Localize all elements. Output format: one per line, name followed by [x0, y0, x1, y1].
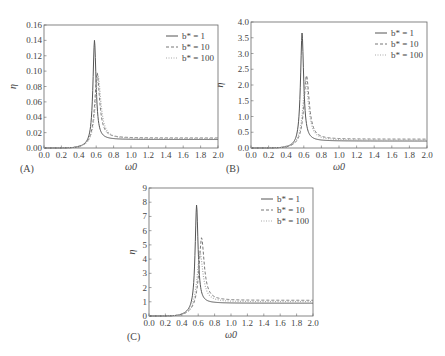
y-tick-label: 6	[143, 226, 148, 236]
legend-label: b* = 10	[277, 205, 305, 215]
x-tick-label: 0.6	[193, 318, 205, 328]
y-tick-label: 0.10	[26, 66, 42, 76]
x-tick-label: 1.6	[275, 318, 287, 328]
y-tick-label: 0.16	[26, 20, 42, 30]
panel-label: (B)	[226, 163, 239, 175]
y-tick-label: 4	[143, 254, 148, 264]
legend-label: b* = 10	[182, 42, 210, 52]
y-tick-label: 0.06	[26, 97, 42, 107]
x-tick-label: 1.4	[160, 150, 172, 160]
x-tick-label: 0.6	[298, 150, 310, 160]
x-tick-label: 1.0	[333, 150, 345, 160]
y-tick-label: 3.5	[238, 33, 250, 43]
y-tick-label: 2.0	[238, 80, 250, 90]
y-tick-label: 7	[143, 211, 148, 221]
x-tick-label: 0.2	[160, 318, 171, 328]
chart-panel-a: 0.00.20.40.60.81.01.21.41.61.82.00.000.0…	[7, 20, 224, 175]
legend-label: b* = 100	[391, 50, 424, 60]
y-tick-label: 4.0	[238, 17, 250, 27]
x-tick-label: 1.6	[178, 150, 190, 160]
x-tick-label: 1.6	[386, 150, 398, 160]
x-tick-label: 1.8	[195, 150, 207, 160]
y-axis-label: η	[7, 84, 18, 89]
series-line	[251, 79, 427, 148]
x-tick-label: 1.0	[125, 150, 137, 160]
series-line	[149, 238, 313, 316]
legend-label: b* = 1	[182, 31, 205, 41]
y-tick-label: 5	[143, 240, 148, 250]
series-line	[251, 76, 427, 148]
y-tick-label: 0.12	[26, 51, 42, 61]
y-tick-label: 3.0	[238, 49, 250, 59]
x-tick-label: 0.8	[209, 318, 221, 328]
x-tick-label: 2.0	[421, 150, 433, 160]
x-tick-label: 0.8	[316, 150, 328, 160]
y-tick-label: 0.5	[238, 127, 250, 137]
x-tick-label: 1.2	[351, 150, 362, 160]
x-axis-label: ω0	[225, 329, 237, 340]
x-tick-label: 0.4	[73, 150, 85, 160]
legend-label: b* = 1	[277, 194, 300, 204]
x-tick-label: 0.8	[108, 150, 120, 160]
y-tick-label: 2	[143, 283, 148, 293]
figure: 0.00.20.40.60.81.01.21.41.61.82.00.000.0…	[0, 0, 445, 356]
legend-label: b* = 100	[182, 53, 215, 63]
x-axis-label: ω0	[333, 161, 345, 172]
y-tick-label: 0.14	[26, 35, 42, 45]
x-tick-label: 1.2	[143, 150, 154, 160]
y-tick-label: 0.0	[238, 143, 250, 153]
chart-panel-b: 0.00.20.40.60.81.01.21.41.61.82.00.00.51…	[214, 17, 433, 175]
series-line	[149, 252, 313, 316]
y-tick-label: 8	[143, 197, 148, 207]
y-tick-label: 0.08	[26, 82, 42, 92]
panel-label: (C)	[127, 331, 140, 343]
x-tick-label: 2.0	[212, 150, 224, 160]
chart-panel-c: 0.00.20.40.60.81.01.21.41.61.82.00123456…	[126, 183, 319, 343]
x-tick-label: 1.4	[258, 318, 270, 328]
y-tick-label: 1.5	[238, 96, 250, 106]
panel-label: (A)	[20, 163, 34, 175]
y-tick-label: 3	[143, 268, 148, 278]
x-tick-label: 1.0	[225, 318, 237, 328]
series-line	[44, 73, 218, 148]
x-tick-label: 1.8	[291, 318, 303, 328]
y-tick-label: 0	[143, 311, 148, 321]
y-tick-label: 9	[143, 183, 148, 193]
x-tick-label: 1.4	[369, 150, 381, 160]
x-tick-label: 1.8	[404, 150, 416, 160]
y-axis-label: η	[214, 82, 225, 87]
x-tick-label: 1.2	[242, 318, 253, 328]
x-tick-label: 0.6	[91, 150, 103, 160]
legend-label: b* = 1	[391, 28, 414, 38]
x-tick-label: 0.4	[281, 150, 293, 160]
x-axis-label: ω0	[125, 161, 137, 172]
y-tick-label: 1.0	[238, 112, 250, 122]
legend-label: b* = 100	[277, 216, 310, 226]
y-tick-label: 1	[143, 297, 148, 307]
x-tick-label: 0.4	[176, 318, 188, 328]
x-tick-label: 0.2	[56, 150, 67, 160]
y-tick-label: 0.04	[26, 112, 42, 122]
x-tick-label: 2.0	[307, 318, 319, 328]
x-tick-label: 0.2	[263, 150, 274, 160]
y-tick-label: 0.02	[26, 128, 42, 138]
legend-label: b* = 10	[391, 39, 419, 49]
y-tick-label: 0.00	[26, 143, 42, 153]
y-tick-label: 2.5	[238, 64, 250, 74]
y-axis-label: η	[126, 249, 137, 254]
